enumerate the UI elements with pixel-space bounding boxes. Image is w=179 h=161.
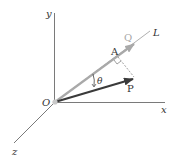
origin-point — [52, 99, 57, 104]
x-axis-label: x — [161, 104, 167, 115]
origin-label: O — [42, 97, 50, 108]
angle-theta-label: θ — [97, 76, 103, 86]
line-L-label: L — [152, 27, 160, 38]
angle-arc — [93, 74, 94, 86]
right-angle-marker — [114, 60, 121, 64]
projection-dashed-line — [118, 57, 134, 77]
vector-P-label: P — [127, 83, 134, 94]
point-A-label: A — [110, 46, 119, 57]
z-axis-label: z — [11, 146, 18, 157]
vector-projection-diagram: y x z O L Q A P θ — [0, 0, 179, 161]
y-axis-label: y — [45, 8, 52, 19]
vector-Q — [55, 44, 134, 102]
z-axis — [14, 102, 55, 143]
vector-Q-label: Q — [124, 32, 132, 43]
